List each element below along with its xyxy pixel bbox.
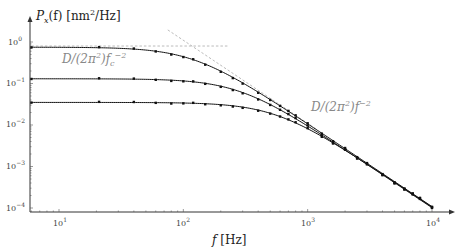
data-point: [241, 92, 243, 94]
data-point: [170, 53, 172, 55]
data-point: [287, 113, 289, 115]
x-tick-labels: 101 102 103 104: [53, 216, 440, 228]
data-point: [241, 82, 243, 84]
data-point: [366, 163, 368, 165]
data-point: [30, 78, 32, 80]
data-point: [170, 80, 172, 82]
x-tick-label: 101: [53, 216, 67, 228]
psd-chart: 101 102 103 104 100 10−1 10−2 10−3 10−4 …: [0, 0, 467, 251]
data-point: [257, 98, 259, 100]
data-point: [241, 107, 243, 109]
series-curve: [30, 77, 433, 209]
data-point: [403, 188, 405, 190]
data-point: [232, 105, 234, 107]
data-point: [431, 206, 433, 208]
data-point: [133, 47, 135, 49]
data-point: [155, 102, 157, 104]
series-curve: [30, 101, 433, 209]
data-point: [220, 71, 222, 73]
x-tick-label: 102: [176, 216, 190, 228]
data-point: [204, 83, 206, 85]
data-point: [220, 86, 222, 88]
data-point: [182, 80, 184, 82]
data-point: [381, 174, 383, 176]
data-point: [294, 121, 296, 123]
data-point: [306, 124, 308, 126]
data-point: [192, 58, 194, 60]
data-point: [306, 127, 308, 129]
data-point: [287, 118, 289, 120]
x-tick-label: 104: [426, 216, 440, 228]
data-point: [257, 109, 259, 111]
x-tick-label: 103: [301, 216, 315, 228]
data-point: [98, 101, 100, 103]
y-tick-label: 10−3: [6, 159, 25, 171]
y-tick-label: 10−4: [6, 201, 25, 213]
data-point: [232, 77, 234, 79]
data-point: [155, 50, 157, 52]
data-point: [321, 136, 323, 138]
data-point: [133, 77, 135, 79]
y-tick-label: 100: [8, 35, 22, 47]
data-point: [182, 56, 184, 58]
data-point: [192, 102, 194, 104]
y-axis-title: Px(f) [nm2/Hz]: [35, 8, 121, 25]
data-point: [182, 102, 184, 104]
y-tick-labels: 100 10−1 10−2 10−3 10−4: [6, 35, 25, 213]
data-point: [204, 103, 206, 105]
data-point: [332, 142, 334, 144]
data-point: [294, 117, 296, 119]
data-point: [393, 182, 395, 184]
data-series: [30, 46, 433, 209]
annotation-power-law: D/(2π2)f−2: [310, 99, 371, 114]
series-curve: [30, 46, 433, 208]
y-tick-label: 10−1: [6, 76, 25, 88]
y-tick-label: 10−2: [6, 117, 25, 129]
data-point: [170, 102, 172, 104]
data-point: [30, 46, 32, 48]
data-point: [257, 92, 259, 94]
data-point: [287, 110, 289, 112]
data-point: [356, 157, 358, 159]
data-point: [192, 80, 194, 82]
data-point: [269, 99, 271, 101]
y-axis-arrow-icon: [28, 16, 33, 22]
data-point: [30, 101, 32, 103]
data-point: [133, 101, 135, 103]
data-point: [412, 193, 414, 195]
data-point: [294, 114, 296, 116]
data-point: [344, 148, 346, 150]
data-point: [419, 197, 421, 199]
data-point: [204, 63, 206, 65]
data-point: [220, 104, 222, 106]
data-point: [306, 122, 308, 124]
x-axis-arrow-icon: [449, 210, 455, 215]
data-point: [232, 89, 234, 91]
annotation-plateau: D/(2π2)fc−2: [61, 51, 126, 68]
x-axis-title: f [Hz]: [211, 233, 246, 247]
data-point: [269, 104, 271, 106]
data-point: [155, 79, 157, 81]
data-point: [98, 46, 100, 48]
data-point: [98, 77, 100, 79]
data-point: [279, 105, 281, 107]
data-point: [279, 115, 281, 117]
data-point: [269, 112, 271, 114]
data-point: [279, 109, 281, 111]
